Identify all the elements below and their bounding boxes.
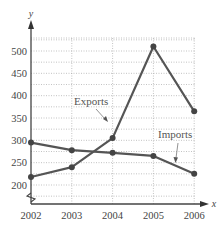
x-tick-label: 2004 [102, 210, 124, 221]
y-tick-label: 200 [11, 180, 27, 191]
x-axis-label: x [211, 198, 217, 209]
y-tick-label: 350 [11, 113, 27, 124]
imports-annotation-arrow [176, 143, 178, 158]
x-tick-label: 2006 [184, 210, 205, 221]
exports-point [28, 174, 34, 180]
grid [31, 38, 196, 204]
exports-point [110, 135, 116, 141]
exports-point [150, 44, 156, 50]
x-tick-labels: 20022003200420052006 [21, 210, 205, 221]
imports-point [69, 147, 75, 153]
line-chart: y x 200250300350400450500 20022003200420… [0, 0, 220, 231]
y-tick-label: 300 [11, 135, 27, 146]
imports-point [110, 150, 116, 156]
exports-arrow-icon [103, 116, 108, 122]
x-axis-arrow-icon [200, 201, 209, 207]
x-tick-label: 2002 [21, 210, 42, 221]
y-tick-label: 250 [11, 157, 27, 168]
exports-annotation: Exports [74, 95, 108, 107]
y-axis-arrow-icon [28, 20, 34, 29]
exports-annotation-arrow [96, 109, 105, 119]
imports-point [191, 171, 197, 177]
imports-annotation: Imports [158, 128, 192, 140]
imports-point [28, 140, 34, 146]
x-tick-label: 2005 [143, 210, 164, 221]
y-tick-label: 450 [11, 68, 27, 79]
x-tick-label: 2003 [61, 210, 82, 221]
exports-point [69, 164, 75, 170]
exports-point [191, 108, 197, 114]
y-tick-label: 400 [11, 90, 27, 101]
imports-point [150, 153, 156, 159]
y-axis-label: y [28, 8, 34, 19]
y-tick-labels: 200250300350400450500 [11, 46, 27, 191]
imports-arrow-icon [174, 157, 179, 163]
y-tick-label: 500 [11, 46, 27, 57]
